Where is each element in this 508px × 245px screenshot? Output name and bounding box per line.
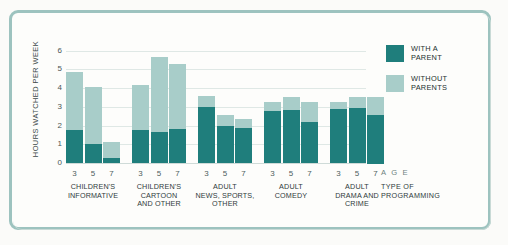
bar-segment-without-parents	[169, 64, 186, 130]
age-tick-label: 3	[198, 169, 215, 179]
y-axis-tick-label: 2	[52, 120, 62, 131]
bar-segment-without-parents	[151, 57, 168, 132]
bar[interactable]	[151, 57, 168, 164]
bar[interactable]	[103, 142, 120, 165]
bar-segment-with-a-parent	[367, 115, 384, 164]
y-axis-tick-label: 5	[52, 63, 62, 74]
bar[interactable]	[66, 72, 83, 164]
y-axis-title-text: HOURS WATCHED PER WEEK	[30, 34, 42, 164]
age-tick-label: 5	[283, 169, 300, 179]
bar-segment-without-parents	[66, 72, 83, 130]
age-tick-label: 7	[235, 169, 252, 179]
bar[interactable]	[349, 97, 366, 165]
age-tick-label: 7	[169, 169, 186, 179]
y-axis-tick-label: 0	[52, 157, 62, 168]
bar-segment-with-a-parent	[235, 128, 252, 164]
bar-segment-without-parents	[217, 115, 234, 125]
x-axis-caption-line: PROGRAMMING	[381, 192, 440, 201]
bar-segment-with-a-parent	[151, 132, 168, 164]
bar-segment-with-a-parent	[217, 126, 234, 164]
bar-segment-with-a-parent	[301, 122, 318, 164]
bar[interactable]	[330, 102, 347, 164]
bar-segment-without-parents	[349, 97, 366, 108]
bar-group	[66, 44, 120, 164]
y-axis-tick-label: 3	[52, 101, 62, 112]
bar[interactable]	[367, 97, 384, 164]
legend-swatch-without-parents	[386, 75, 404, 92]
bar-segment-without-parents	[132, 85, 149, 130]
chart-legend: WITH A PARENTWITHOUT PARENTS	[386, 44, 486, 104]
bar[interactable]	[169, 64, 186, 164]
y-axis-title: HOURS WATCHED PER WEEK	[30, 0, 42, 40]
bar-segment-without-parents	[301, 102, 318, 122]
bar-segment-with-a-parent	[85, 144, 102, 164]
bar-segment-with-a-parent	[198, 107, 215, 164]
bar[interactable]	[283, 97, 300, 165]
bar-segment-with-a-parent	[169, 129, 186, 164]
bar-group	[132, 44, 186, 164]
bar-segment-without-parents	[367, 97, 384, 115]
bar-segment-with-a-parent	[66, 130, 83, 164]
age-tick-label: 3	[330, 169, 347, 179]
legend-label: WITH A PARENT	[411, 44, 442, 62]
legend-item[interactable]: WITH A PARENT	[386, 44, 486, 68]
y-axis-tick-label: 6	[52, 45, 62, 56]
legend-swatch-with-a-parent	[386, 45, 404, 62]
age-tick-label: 5	[151, 169, 168, 179]
age-tick-label: 5	[85, 169, 102, 179]
bar[interactable]	[85, 87, 102, 164]
bar-segment-with-a-parent	[349, 108, 366, 164]
bar[interactable]	[217, 115, 234, 164]
legend-label: WITHOUT PARENTS	[411, 74, 447, 92]
bar-segment-without-parents	[283, 97, 300, 110]
bar-segment-without-parents	[198, 96, 215, 107]
bar-segment-without-parents	[264, 102, 281, 110]
bar[interactable]	[264, 102, 281, 164]
bar[interactable]	[198, 96, 215, 164]
category-label-line: OTHER	[182, 200, 268, 209]
bar-group	[198, 44, 252, 164]
age-tick-label: 3	[66, 169, 83, 179]
bar-segment-without-parents	[85, 87, 102, 144]
age-tick-label: 7	[301, 169, 318, 179]
bar-group	[330, 44, 384, 164]
bar[interactable]	[235, 119, 252, 164]
age-tick-label: 3	[264, 169, 281, 179]
y-axis-tick-label: 4	[52, 82, 62, 93]
plot-area: 0123456	[66, 44, 366, 164]
bar[interactable]	[301, 102, 318, 164]
age-axis-caption: A G E	[381, 168, 409, 177]
bar-segment-without-parents	[103, 142, 120, 159]
category-label-line: CRIME	[314, 200, 400, 209]
bar-segment-with-a-parent	[264, 111, 281, 164]
age-tick-label: 5	[349, 169, 366, 179]
bar-segment-without-parents	[235, 119, 252, 128]
y-axis-tick-label: 1	[52, 138, 62, 149]
bar-segment-with-a-parent	[330, 109, 347, 164]
bar[interactable]	[132, 85, 149, 164]
age-tick-label: 5	[217, 169, 234, 179]
chart-page: HOURS WATCHED PER WEEK 0123456 357357357…	[0, 0, 508, 245]
bar-segment-with-a-parent	[283, 110, 300, 164]
legend-item[interactable]: WITHOUT PARENTS	[386, 74, 486, 98]
age-tick-label: 3	[132, 169, 149, 179]
bar-group	[264, 44, 318, 164]
x-axis-baseline	[66, 163, 366, 164]
age-tick-label: 7	[103, 169, 120, 179]
bar-segment-with-a-parent	[132, 130, 149, 164]
x-axis-caption: TYPE OFPROGRAMMING	[381, 183, 440, 200]
